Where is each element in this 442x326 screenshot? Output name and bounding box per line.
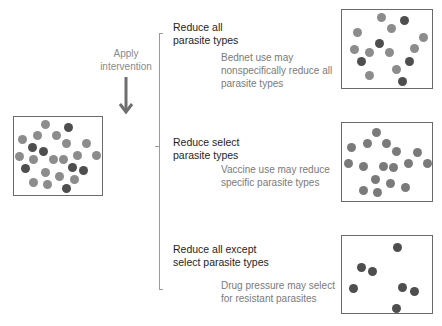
- parasite-dot: [423, 159, 432, 168]
- parasite-dot: [39, 147, 48, 156]
- parasite-dot: [18, 135, 27, 144]
- parasite-dot: [59, 155, 68, 164]
- parasite-dot: [393, 243, 402, 252]
- parasite-dot: [359, 162, 368, 171]
- parasite-dot: [349, 284, 358, 293]
- parasite-dot: [73, 151, 82, 160]
- parasite-dot: [401, 183, 410, 192]
- parasite-dot: [379, 162, 388, 171]
- parasite-dot: [68, 163, 77, 172]
- parasite-dot: [387, 24, 396, 33]
- parasite-dot: [357, 263, 366, 272]
- parasite-dot: [49, 155, 58, 164]
- parasite-dot: [64, 123, 73, 132]
- parasite-dot: [92, 151, 101, 160]
- parasite-dot: [377, 13, 386, 22]
- parasite-dot: [21, 164, 30, 173]
- parasite-dot: [70, 175, 79, 184]
- parasite-dot: [29, 178, 38, 187]
- parasite-dot: [368, 267, 377, 276]
- parasite-dot: [55, 172, 64, 181]
- parasite-dot: [413, 148, 422, 157]
- parasite-dot: [33, 131, 42, 140]
- parasite-dot: [410, 44, 419, 53]
- parasite-dot: [41, 120, 50, 129]
- parasite-dot: [410, 287, 419, 296]
- parasite-dot: [43, 180, 52, 189]
- parasite-dot: [357, 57, 366, 66]
- parasite-dot: [365, 48, 374, 57]
- parasite-dot: [365, 71, 374, 80]
- parasite-dot: [353, 28, 362, 37]
- parasite-dot: [29, 155, 38, 164]
- parasite-dot: [373, 188, 382, 197]
- parasite-dot: [398, 283, 407, 292]
- parasite-dot: [375, 39, 384, 48]
- parasite-dot: [350, 45, 359, 54]
- parasite-dot: [347, 143, 356, 152]
- parasite-dot: [392, 304, 401, 313]
- parasite-dot: [363, 139, 372, 148]
- parasite-dot: [371, 175, 380, 184]
- parasite-dot: [62, 184, 71, 193]
- parasite-dot: [372, 128, 381, 137]
- parasite-dot: [62, 139, 71, 148]
- parasite-dot: [359, 186, 368, 195]
- parasite-dot: [385, 48, 394, 57]
- parasite-dot: [419, 33, 428, 42]
- parasite-dot: [52, 131, 61, 140]
- parasite-dot: [15, 152, 24, 161]
- parasite-dot: [392, 65, 401, 74]
- parasite-dot: [404, 159, 413, 168]
- parasite-dot: [392, 147, 401, 156]
- parasite-dot: [41, 168, 50, 177]
- parasite-dot: [400, 16, 409, 25]
- parasite-dot: [398, 77, 407, 86]
- parasite-dot: [382, 139, 391, 148]
- parasite-dot: [82, 139, 91, 148]
- parasite-dot-layer: [0, 0, 442, 326]
- parasite-dot: [405, 57, 414, 66]
- parasite-dot: [79, 166, 88, 175]
- parasite-dot: [386, 179, 395, 188]
- parasite-dot: [389, 163, 398, 172]
- parasite-dot: [28, 143, 37, 152]
- parasite-dot: [344, 159, 353, 168]
